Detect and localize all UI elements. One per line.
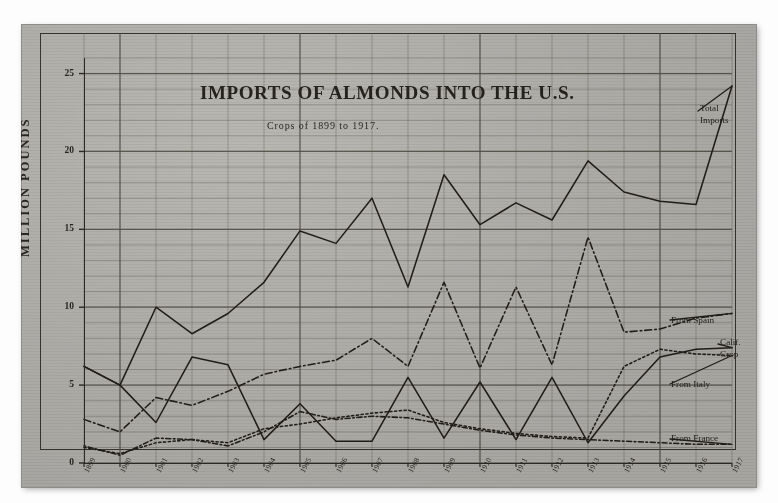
series-label-from-spain: From Spain (671, 315, 714, 327)
y-axis-title: MILLION POUNDS (18, 118, 33, 257)
series-label-from-france: From France (671, 433, 718, 445)
series-label-total-imports: Total Imports (700, 103, 729, 126)
y-tick-5: 5 (52, 379, 74, 389)
chart-paper: IMPORTS OF ALMONDS INTO THE U.S. Crops o… (22, 25, 756, 487)
y-axis-line (84, 58, 85, 463)
chart-subtitle: Crops of 1899 to 1917. (267, 120, 379, 131)
screenshot-canvas: IMPORTS OF ALMONDS INTO THE U.S. Crops o… (0, 0, 778, 503)
y-tick-25: 25 (52, 68, 74, 78)
series-label-calif-crop: Calif. Crop (720, 337, 741, 360)
y-tick-0: 0 (52, 457, 74, 467)
series-label-from-italy: From Italy (671, 379, 710, 391)
y-tick-15: 15 (52, 223, 74, 233)
chart-title: IMPORTS OF ALMONDS INTO THE U.S. (200, 82, 575, 104)
y-tick-10: 10 (52, 301, 74, 311)
y-tick-20: 20 (52, 145, 74, 155)
